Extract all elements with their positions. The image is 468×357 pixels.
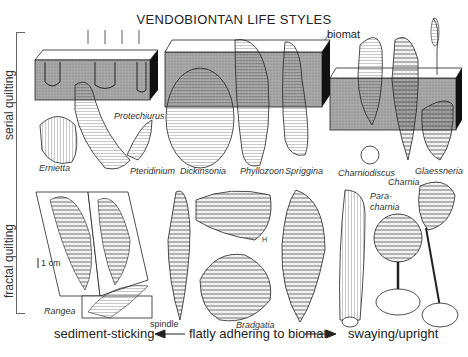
scale-label: 1 cm bbox=[41, 258, 61, 268]
axis-label-swaying-upright: swaying/upright bbox=[348, 326, 438, 341]
bradgatia-shape bbox=[200, 254, 271, 321]
charnia-shape bbox=[392, 38, 418, 161]
axis-label-flatly-adhering: flatly adhering to biomat bbox=[189, 326, 327, 341]
biomat-label: biomat bbox=[327, 28, 360, 40]
round-frond-shape bbox=[374, 214, 422, 262]
label-phyllozoon: Phyllozoon bbox=[240, 166, 284, 176]
ernietta-shape bbox=[40, 117, 77, 164]
rangea-boxes bbox=[36, 192, 152, 318]
label-rangea: Rangea bbox=[44, 306, 76, 316]
spindle-shape bbox=[168, 191, 190, 320]
leaf-frond-shape bbox=[282, 190, 325, 322]
label-protechiurus: Protechiurus bbox=[114, 111, 165, 121]
label-dickinsonia: Dickinsonia bbox=[180, 166, 226, 176]
label-charniodiscus: Charniodiscus bbox=[338, 168, 395, 178]
h-fragment-shape bbox=[196, 191, 271, 240]
label-charnia: Charnia bbox=[388, 177, 420, 187]
charniodiscus-holdfast bbox=[361, 146, 379, 164]
stalked-frond-shape bbox=[419, 182, 455, 230]
dickinsonia-shape bbox=[166, 68, 234, 168]
label-pteridinium: Pteridinium bbox=[130, 166, 175, 176]
label-ernietta: Ernietta bbox=[39, 163, 70, 173]
label-glaessneria: Glaessneria bbox=[415, 166, 463, 176]
label-paracharnia-2: charnia bbox=[370, 202, 400, 212]
protechiurus-shape bbox=[127, 120, 152, 160]
h-mark-label: H bbox=[262, 236, 267, 243]
paracharnia-shape bbox=[340, 190, 365, 320]
glaessneria-shape bbox=[422, 101, 453, 160]
sediment-block-1 bbox=[35, 30, 158, 100]
label-paracharnia-1: Para- bbox=[370, 191, 392, 201]
label-spriggina: Spriggina bbox=[285, 166, 323, 176]
axis-label-sediment-sticking: sediment-sticking bbox=[54, 326, 154, 341]
